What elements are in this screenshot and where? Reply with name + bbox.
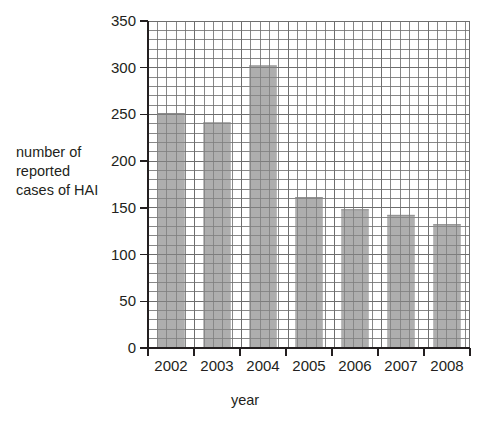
grid-lines-overlay [148,21,470,348]
x-tick-label-2003: 2003 [194,358,240,373]
x-tick-label-2008: 2008 [424,358,470,373]
y-tick-label: 100 [90,247,136,262]
y-tick-label: 150 [90,200,136,215]
plot-area [148,21,470,348]
y-tick-label: 200 [90,153,136,168]
y-tick-label: 250 [90,106,136,121]
x-tick-label-2005: 2005 [286,358,332,373]
y-tick-label: 0 [90,340,136,355]
x-tick-label-2002: 2002 [148,358,194,373]
y-tick-label: 300 [90,60,136,75]
bar-chart: number of reported cases of HAI year 050… [0,0,490,423]
x-tick-label-2006: 2006 [332,358,378,373]
x-tick-label-2007: 2007 [378,358,424,373]
y-tick-label: 50 [90,293,136,308]
x-axis-title: year [0,392,490,408]
y-tick-label: 350 [90,13,136,28]
x-tick-label-2004: 2004 [240,358,286,373]
